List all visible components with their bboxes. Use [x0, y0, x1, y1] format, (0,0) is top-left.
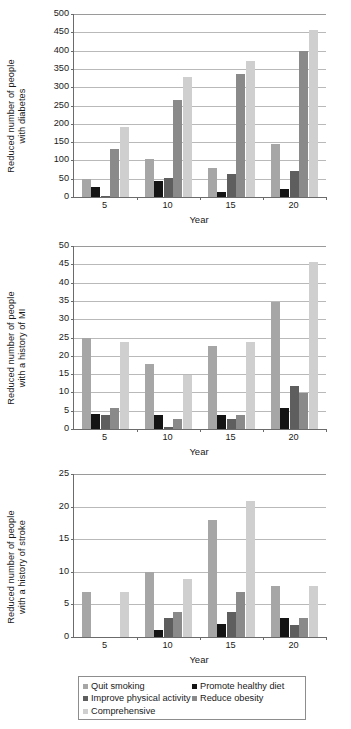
- legend-item-label: Quit smoking: [91, 682, 145, 691]
- y-tick-label: 50: [39, 241, 69, 250]
- y-tick-label: 300: [39, 83, 69, 92]
- bar: [246, 501, 255, 637]
- bar: [208, 346, 217, 429]
- legend-item-label: Reduce obesity: [200, 694, 263, 703]
- bar: [164, 618, 173, 637]
- legend-swatch-icon: [83, 709, 88, 714]
- y-tick-label: 0: [39, 424, 69, 433]
- legend-item: Promote healthy diet: [192, 680, 301, 693]
- x-tick-label: 20: [288, 641, 298, 650]
- legend-swatch-icon: [83, 684, 88, 689]
- bars-container: [74, 246, 326, 429]
- bar: [280, 189, 289, 197]
- bar: [120, 592, 129, 637]
- chart-diabetes: Reduced number of peoplewith diabetes050…: [0, 0, 351, 232]
- bar: [154, 181, 163, 197]
- x-tick-label: 5: [102, 433, 107, 442]
- bar: [82, 592, 91, 637]
- y-axis-title-text: Reduced number of peoplewith a history o…: [6, 510, 28, 623]
- x-axis-title: Year: [189, 446, 208, 457]
- bar: [173, 612, 182, 637]
- y-axis-tick: [71, 197, 74, 198]
- legend: Quit smokingPromote healthy dietImprove …: [78, 676, 306, 720]
- bar: [101, 415, 110, 429]
- legend-item-label: Improve physical activity: [91, 694, 191, 703]
- y-tick-label: 0: [39, 192, 69, 201]
- bar: [299, 51, 308, 197]
- y-tick-label: 350: [39, 64, 69, 73]
- x-axis-title: Year: [189, 214, 208, 225]
- x-axis-tick: [200, 197, 201, 200]
- x-axis-tick: [263, 637, 264, 640]
- legend-item-label: Comprehensive: [91, 707, 155, 716]
- bar: [145, 364, 154, 429]
- x-axis-tick: [326, 637, 327, 640]
- y-tick-label: 150: [39, 137, 69, 146]
- x-axis-tick: [263, 429, 264, 432]
- y-axis-title: Reduced number of peoplewith diabetes: [0, 0, 34, 232]
- y-tick-label: 45: [39, 260, 69, 269]
- x-axis-title: Year: [189, 654, 208, 665]
- y-tick-label: 10: [39, 567, 69, 576]
- bar: [173, 419, 182, 429]
- bar: [271, 586, 280, 638]
- bar: [299, 393, 308, 429]
- bar: [164, 427, 173, 429]
- y-tick-label: 20: [39, 351, 69, 360]
- bar: [208, 520, 217, 637]
- bar: [290, 625, 299, 637]
- bar: [246, 61, 255, 197]
- x-tick-label: 5: [102, 641, 107, 650]
- bar: [183, 77, 192, 197]
- y-axis-tick-labels: 050100150200250300350400450500: [39, 0, 69, 197]
- y-tick-label: 400: [39, 46, 69, 55]
- bar: [271, 144, 280, 197]
- bar: [91, 414, 100, 429]
- y-tick-label: 50: [39, 174, 69, 183]
- bar: [246, 342, 255, 429]
- x-tick-label: 20: [288, 201, 298, 210]
- bar: [110, 408, 119, 429]
- y-tick-label: 35: [39, 296, 69, 305]
- bar: [309, 262, 318, 429]
- y-tick-label: 25: [39, 333, 69, 342]
- bar: [164, 178, 173, 197]
- y-tick-label: 10: [39, 388, 69, 397]
- bar: [217, 192, 226, 197]
- x-axis-tick: [137, 429, 138, 432]
- bar: [154, 415, 163, 429]
- bar: [120, 127, 129, 197]
- x-tick-label: 10: [162, 433, 172, 442]
- bar: [183, 579, 192, 637]
- legend-item: Quit smoking: [83, 680, 192, 693]
- legend-item-label: Promote healthy diet: [200, 682, 284, 691]
- y-axis-tick: [71, 429, 74, 430]
- y-axis-title-text: Reduced number of peoplewith diabetes: [6, 59, 28, 172]
- bar: [145, 572, 154, 637]
- bar: [227, 419, 236, 429]
- bar: [236, 592, 245, 637]
- bar: [217, 624, 226, 637]
- y-tick-label: 20: [39, 502, 69, 511]
- bar: [309, 586, 318, 638]
- y-tick-label: 500: [39, 9, 69, 18]
- y-axis-title: Reduced number of peoplewith a history o…: [0, 464, 34, 669]
- x-axis-tick: [263, 197, 264, 200]
- bar: [217, 415, 226, 429]
- y-axis-title: Reduced number of peoplewith a history o…: [0, 232, 34, 464]
- y-tick-label: 250: [39, 101, 69, 110]
- plot-area: [73, 14, 326, 198]
- x-axis-tick: [200, 637, 201, 640]
- bar: [120, 342, 129, 429]
- x-tick-label: 15: [225, 433, 235, 442]
- y-tick-label: 450: [39, 28, 69, 37]
- bar: [280, 408, 289, 429]
- x-axis-tick: [137, 197, 138, 200]
- bar: [145, 159, 154, 197]
- bar: [227, 612, 236, 637]
- y-tick-label: 25: [39, 469, 69, 478]
- bar: [299, 618, 308, 637]
- x-tick-label: 5: [102, 201, 107, 210]
- bar: [208, 168, 217, 197]
- chart-mi: Reduced number of peoplewith a history o…: [0, 232, 351, 464]
